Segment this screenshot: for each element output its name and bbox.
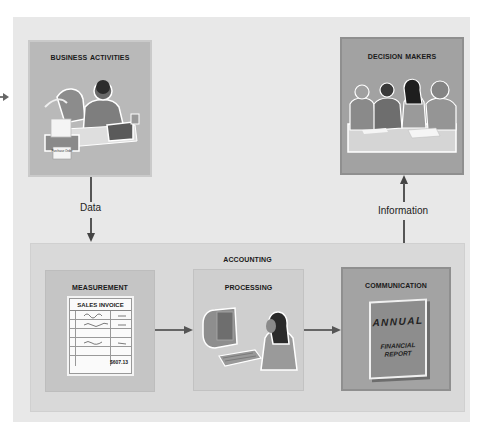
information-arrow-line-bottom [403, 220, 405, 243]
data-edge-label: Data [78, 202, 103, 213]
data-arrow-line-bottom [90, 218, 92, 234]
annual-financial-report-illustration: ANNUAL FINANCIAL REPORT [369, 298, 427, 379]
invoice-total: $607.13 [110, 359, 128, 365]
incoming-arrowhead-icon [3, 93, 9, 101]
sales-invoice-illustration: SALES INVOICE $607.13 [69, 298, 132, 374]
report-title-annual: ANNUAL [371, 315, 425, 329]
invoice-title: SALES INVOICE [70, 299, 131, 311]
measurement-to-processing-line [155, 329, 184, 331]
decision-makers-title: Decision Makers [342, 50, 462, 61]
measurement-to-processing-arrowhead-icon [184, 326, 193, 334]
processing-to-communication-line [304, 329, 332, 331]
information-arrow-line-top [403, 183, 405, 202]
data-arrowhead-icon [87, 233, 95, 242]
measurement-title: Measurement [46, 281, 154, 292]
processing-to-communication-arrowhead-icon [332, 326, 341, 334]
business-activities-box: Business Activities Purchase Order [28, 40, 152, 177]
communication-title: Communication [343, 279, 449, 290]
report-title-financial-report: FINANCIAL REPORT [371, 341, 425, 360]
data-arrow-line-top [90, 177, 92, 202]
decision-makers-box: Decision Makers [340, 37, 464, 175]
computer-operator-illustration-icon [199, 304, 299, 379]
business-activities-title: Business Activities [30, 51, 150, 62]
svg-text:Purchase Order: Purchase Order [51, 149, 72, 153]
business-person-illustration-icon: Purchase Order [35, 67, 145, 162]
processing-box: Processing [193, 269, 304, 391]
processing-title: Processing [194, 281, 303, 292]
accounting-title: Accounting [31, 253, 464, 264]
decision-makers-illustration-icon [346, 74, 458, 154]
information-edge-label: Information [376, 205, 430, 216]
